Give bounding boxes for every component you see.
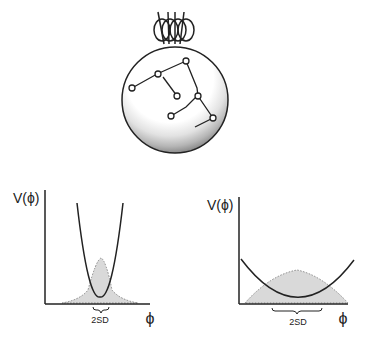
left-potential-plot: V(ϕ) 2SD ϕ — [13, 190, 155, 327]
right-x-label: ϕ — [339, 310, 348, 327]
sphere — [122, 47, 228, 153]
right-y-label: V(ϕ) — [207, 197, 234, 213]
left-y-label: V(ϕ) — [13, 190, 40, 206]
field-loops-icon — [154, 12, 194, 44]
right-potential-plot: V(ϕ) 2SD ϕ — [207, 197, 354, 327]
figure-canvas: V(ϕ) 2SD ϕ V(ϕ) 2SD ϕ — [0, 0, 366, 341]
left-2sd-label: 2SD — [91, 315, 109, 325]
right-2sd-label: 2SD — [289, 317, 307, 327]
left-x-label: ϕ — [146, 310, 155, 327]
